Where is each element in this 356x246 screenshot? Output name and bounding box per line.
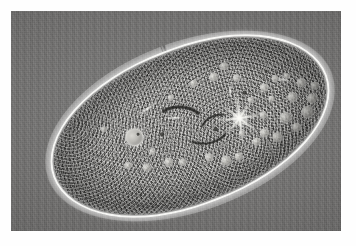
microscope-field-plate (11, 11, 341, 231)
figure-root (0, 0, 356, 246)
field-vignette (11, 11, 341, 231)
